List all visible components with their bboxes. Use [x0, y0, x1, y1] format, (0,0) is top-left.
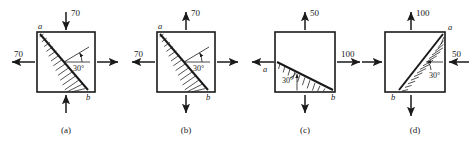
panel-a-load-top-value: 70 — [71, 8, 81, 18]
panel-d-load-top-value: 100 — [416, 8, 430, 18]
panel-d-angle-label: 30° — [429, 71, 440, 80]
panel-b-angle-label: 30° — [193, 64, 204, 73]
panel-d-load-right-value: 50 — [452, 49, 462, 59]
panel-a-caption: (a) — [61, 125, 71, 135]
panel-d-label-b: b — [391, 92, 395, 102]
panel-a-label-a: a — [38, 21, 42, 31]
panel-b-caption: (b) — [181, 125, 192, 135]
panel-a-load-left-value: 70 — [14, 49, 24, 59]
panel-b-load-top-value: 70 — [191, 8, 201, 18]
figure-stress-elements: a b 30° 70 70 (a) — [0, 0, 475, 142]
panel-b-label-b: b — [206, 92, 210, 102]
panel-c-label-b: b — [331, 92, 335, 102]
panel-d-label-a: a — [448, 22, 452, 32]
panel-c-angle-label: 30° — [282, 76, 293, 85]
panel-c-caption: (c) — [300, 125, 310, 135]
panel-b-load-left-value: 70 — [134, 49, 144, 59]
panel-c: a b 30° 50 100 (c) — [252, 8, 360, 135]
panel-c-load-right-value: 100 — [341, 49, 355, 59]
panel-a-angle-label: 30° — [73, 64, 84, 73]
panel-d-caption: (d) — [410, 125, 421, 135]
panel-b: a b 30° 70 70 (b) — [132, 8, 238, 135]
panel-c-label-a: a — [263, 64, 267, 74]
panel-a-label-b: b — [86, 92, 90, 102]
panel-a: a b 30° 70 70 (a) — [12, 8, 118, 135]
panel-d: a b 30° 100 50 (d) — [362, 8, 469, 135]
panel-b-label-a: a — [158, 21, 162, 31]
panel-c-load-top-value: 50 — [310, 8, 320, 18]
